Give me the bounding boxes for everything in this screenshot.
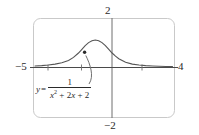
axis-label-x-max: 4 [178, 61, 184, 72]
axis-label-y-max: 2 [105, 5, 111, 16]
axis-label-x-min: −5 [15, 61, 27, 72]
equation-denominator: x2 + 2x + 2 [48, 88, 91, 100]
equation-fraction: 1 x2 + 2x + 2 [48, 78, 91, 100]
denominator-term-b: + 2 [75, 90, 89, 100]
annotation-arrowhead [83, 51, 86, 54]
axis-label-y-min: −2 [104, 120, 116, 131]
graph-figure: 2 −5 4 −2 y = 1 x2 + 2x + 2 [0, 0, 199, 135]
denominator-term-a: + 2 [57, 90, 71, 100]
equation-equals: = [41, 85, 46, 94]
plot-canvas [0, 0, 199, 135]
equation-annotation: y = 1 x2 + 2x + 2 [36, 78, 91, 100]
equation-numerator: 1 [64, 78, 75, 87]
equation-lhs: y [36, 85, 40, 94]
